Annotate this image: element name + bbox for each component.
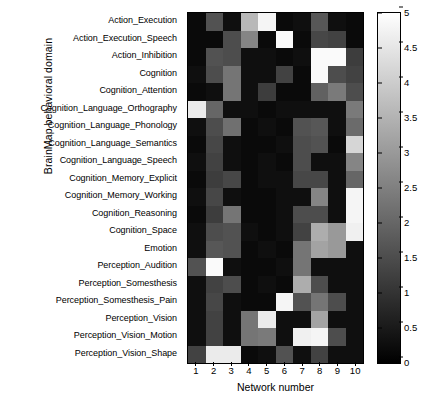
heatmap-cell [328,276,346,294]
heatmap-cell [328,293,346,311]
heatmap-cell [241,223,259,241]
colorbar-inner-tick-mark [378,82,382,83]
heatmap-cell [223,328,241,346]
heatmap-cell [258,136,276,154]
colorbar-tick-label: 3.5 [404,112,417,123]
heatmap-cell [258,188,276,206]
heatmap-cell [188,276,206,294]
x-axis-tick-label: 4 [240,365,258,376]
heatmap-cell [241,31,259,49]
colorbar-tick-label: 1 [404,287,409,298]
heatmap-figure: BrainMap behavioral domain Action_Execut… [0,0,429,403]
colorbar-inner-tick-mark [378,117,382,118]
heatmap-cell [293,258,311,276]
heatmap-cell [241,206,259,224]
heatmap-cell [293,188,311,206]
x-axis-tick-label: 8 [311,365,329,376]
y-axis-tick-label: Cognition_Language_Orthography [24,100,182,118]
heatmap-cell [293,206,311,224]
heatmap-cell [328,31,346,49]
heatmap-cell [223,136,241,154]
heatmap-cell [311,136,329,154]
heatmap-cell [346,311,364,329]
heatmap-cell [346,136,364,154]
heatmap-cell [241,171,259,189]
heatmap-cell [258,311,276,329]
heatmap-cell [328,311,346,329]
heatmap-cell [346,31,364,49]
colorbar-tick-label: 0.5 [404,322,417,333]
heatmap-cell [206,153,224,171]
heatmap-cell [241,276,259,294]
heatmap-cell [311,83,329,101]
heatmap-cell [311,66,329,84]
heatmap-cell [223,188,241,206]
heatmap-cell [346,188,364,206]
heatmap-cell [206,223,224,241]
heatmap-cell [346,118,364,136]
heatmap-cell [276,153,294,171]
heatmap-cell [223,241,241,259]
heatmap-cell [206,258,224,276]
heatmap-cell [188,153,206,171]
heatmap-cell [328,48,346,66]
heatmap-cell [188,136,206,154]
colorbar-tick-labels: 00.511.522.533.544.55 [401,12,429,362]
heatmap-cell [223,171,241,189]
heatmap-cell [293,276,311,294]
y-axis-tick-label: Action_Execution [24,12,182,30]
x-axis-tick-label: 6 [276,365,294,376]
heatmap-cell [258,13,276,31]
colorbar-inner-tick-mark [378,222,382,223]
heatmap-cell [328,206,346,224]
heatmap-cell [206,31,224,49]
heatmap-cell [293,328,311,346]
colorbar-inner-tick-mark [378,12,382,13]
colorbar-inner-tick-mark [378,47,382,48]
heatmap-cell [241,258,259,276]
heatmap-cell [241,83,259,101]
colorbar-inner-tick-mark [378,187,382,188]
heatmap-cell [276,346,294,364]
heatmap-cell [241,118,259,136]
colorbar-tick-mark [399,252,403,253]
x-axis-tick-labels: 12345678910 [187,365,364,376]
heatmap-cell [206,48,224,66]
y-axis-tick-label: Perception_Vision_Motion [24,327,182,345]
heatmap-cell [276,311,294,329]
heatmap-cell [258,328,276,346]
x-axis-tick-label: 1 [187,365,205,376]
heatmap-cell [293,48,311,66]
heatmap-cell [276,188,294,206]
heatmap-cell [346,66,364,84]
heatmap-cell [346,83,364,101]
heatmap-cell [293,118,311,136]
colorbar-inner-tick-mark [378,152,382,153]
heatmap-cell [241,66,259,84]
heatmap-cell [258,258,276,276]
heatmap-cell [223,153,241,171]
heatmap-cell [241,241,259,259]
heatmap-cell [346,346,364,364]
heatmap-cell [223,66,241,84]
colorbar-inner-tick-mark [378,327,382,328]
y-axis-tick-label: Emotion [24,240,182,258]
heatmap-cell [241,346,259,364]
heatmap-cell [258,48,276,66]
heatmap-cell [276,223,294,241]
heatmap-cell [293,346,311,364]
colorbar-tick-mark [399,287,403,288]
heatmap-cell [293,223,311,241]
heatmap-cell [293,13,311,31]
x-axis-tick-label: 5 [258,365,276,376]
heatmap-cell [346,153,364,171]
heatmap-cell [206,13,224,31]
heatmap-cell [346,328,364,346]
heatmap-cell [241,101,259,119]
heatmap-cell [258,31,276,49]
heatmap-cell [188,206,206,224]
heatmap-cell [241,153,259,171]
heatmap-cell [276,276,294,294]
heatmap-cell [276,241,294,259]
heatmap-cell [223,311,241,329]
